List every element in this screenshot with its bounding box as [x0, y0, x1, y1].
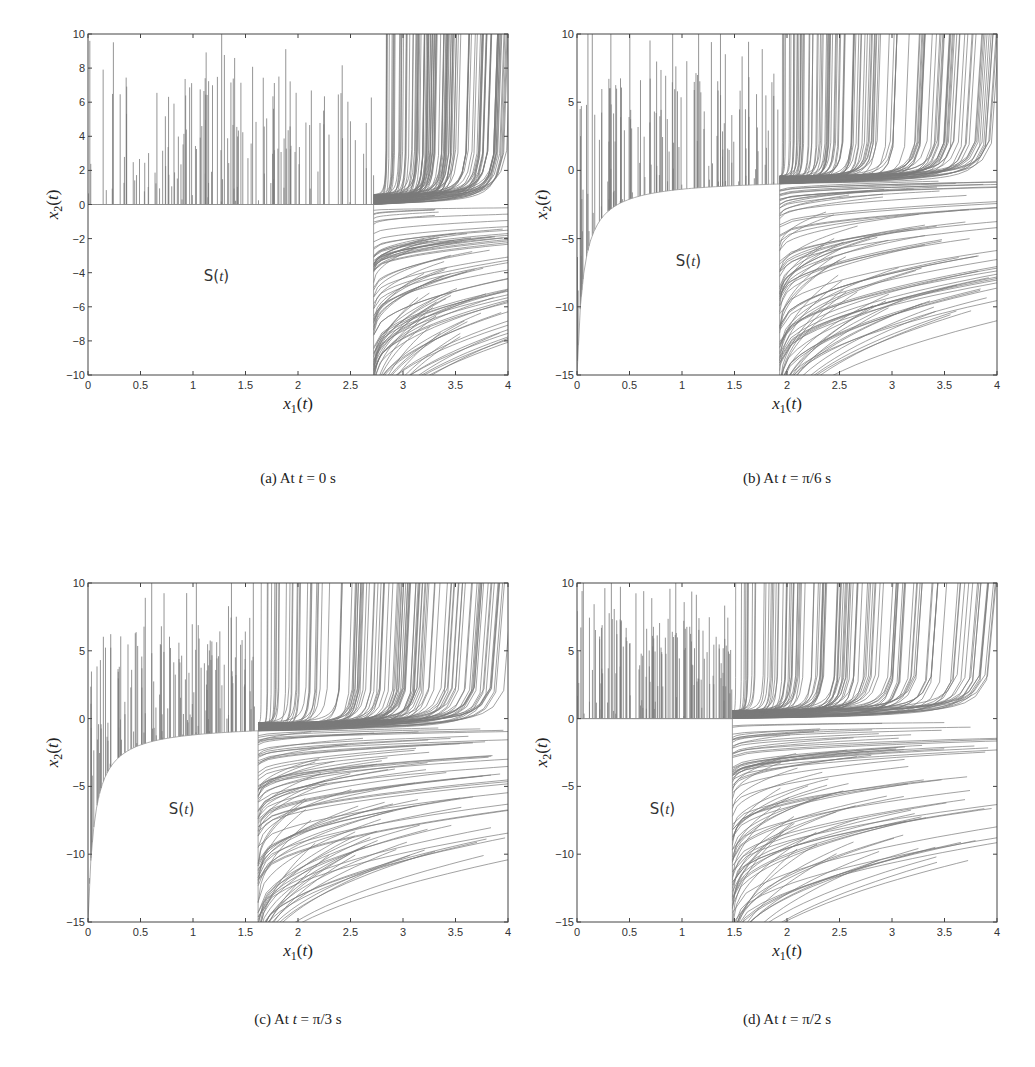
x-tick-label: 0 [574, 379, 580, 391]
x-tick-label: 1.5 [238, 926, 253, 938]
y-tick-label: 8 [79, 62, 85, 74]
x-tick-label: 0.5 [133, 379, 148, 391]
x-tick-label: 2.5 [832, 926, 847, 938]
x-tick-label: 1.5 [727, 926, 742, 938]
panel-d: 00.511.522.533.54−15−10−50510x1(t)x2(t)S… [517, 548, 1035, 1067]
y-tick-label: 10 [562, 28, 574, 40]
caption-c: (c) At t = π/3 s [148, 1011, 448, 1028]
y-tick-label: 4 [79, 130, 85, 142]
x-tick-label: 0.5 [133, 926, 148, 938]
y-tick-label: 5 [568, 645, 574, 657]
y-tick-label: −8 [72, 335, 85, 347]
y-tick-label: 5 [568, 96, 574, 108]
x-tick-label: 2 [295, 926, 301, 938]
y-tick-label: −4 [72, 267, 85, 279]
caption-b: (b) At t = π/6 s [637, 470, 937, 487]
safe-set-label: S(t) [204, 267, 229, 285]
y-tick-label: −10 [555, 848, 574, 860]
y-axis-label: x2(t) [532, 738, 554, 769]
y-tick-label: 6 [79, 96, 85, 108]
y-tick-label: −15 [555, 916, 574, 928]
y-tick-label: −10 [66, 848, 85, 860]
trajectories [577, 7, 1035, 432]
x-tick-label: 1 [190, 926, 196, 938]
chart-b: 00.511.522.533.54−15−10−50510x1(t)x2(t)S… [517, 0, 1035, 520]
y-tick-label: −2 [72, 233, 85, 245]
y-axis-label: x2(t) [43, 190, 65, 221]
x-tick-label: 4 [994, 379, 1000, 391]
x-tick-label: 4 [994, 926, 1000, 938]
y-tick-label: −10 [555, 301, 574, 313]
y-tick-label: −5 [561, 780, 574, 792]
x-tick-label: 2 [784, 379, 790, 391]
safe-set-label: S(t) [676, 252, 701, 270]
y-tick-label: 0 [79, 199, 85, 211]
y-tick-label: 0 [568, 713, 574, 725]
x-tick-label: 3 [889, 379, 895, 391]
x-tick-label: 3.5 [937, 926, 952, 938]
chart-a: 00.511.522.533.54−10−8−6−4−20246810x1(t)… [0, 0, 517, 520]
x-tick-label: 3 [889, 926, 895, 938]
x-tick-label: 0.5 [622, 926, 637, 938]
x-tick-label: 3.5 [937, 379, 952, 391]
y-axis-label: x2(t) [532, 190, 554, 221]
panel-b: 00.511.522.533.54−15−10−50510x1(t)x2(t)S… [517, 0, 1035, 520]
x-tick-label: 4 [505, 379, 511, 391]
x-tick-label: 1.5 [727, 379, 742, 391]
x-tick-label: 1 [679, 379, 685, 391]
x-tick-label: 2 [295, 379, 301, 391]
y-tick-label: −5 [72, 780, 85, 792]
y-tick-label: −15 [66, 916, 85, 928]
y-tick-label: −6 [72, 301, 85, 313]
x-tick-label: 2.5 [343, 379, 358, 391]
y-tick-label: −5 [561, 233, 574, 245]
x-axis-label: x1(t) [771, 394, 802, 416]
trajectories [577, 556, 1035, 980]
y-tick-label: −10 [66, 369, 85, 381]
x-axis-label: x1(t) [771, 941, 802, 963]
x-tick-label: 1 [679, 926, 685, 938]
x-tick-label: 0 [85, 379, 91, 391]
y-tick-label: 0 [79, 713, 85, 725]
x-tick-label: 3.5 [448, 379, 463, 391]
x-tick-label: 4 [505, 926, 511, 938]
x-tick-label: 0 [574, 926, 580, 938]
chart-d: 00.511.522.533.54−15−10−50510x1(t)x2(t)S… [517, 548, 1035, 1067]
x-tick-label: 3 [400, 379, 406, 391]
x-tick-label: 2.5 [343, 926, 358, 938]
y-tick-label: 5 [79, 645, 85, 657]
x-tick-label: 0 [85, 926, 91, 938]
x-tick-label: 2.5 [832, 379, 847, 391]
caption-d: (d) At t = π/2 s [637, 1011, 937, 1028]
y-tick-label: 10 [73, 577, 85, 589]
y-tick-label: 10 [562, 577, 574, 589]
y-tick-label: 10 [73, 28, 85, 40]
x-tick-label: 3 [400, 926, 406, 938]
panel-a: 00.511.522.533.54−10−8−6−4−20246810x1(t)… [0, 0, 517, 520]
x-tick-label: 0.5 [622, 379, 637, 391]
x-tick-label: 3.5 [448, 926, 463, 938]
panel-c: 00.511.522.533.54−15−10−50510x1(t)x2(t)S… [0, 548, 517, 1067]
axes-frame [88, 583, 508, 922]
trajectories [88, 556, 547, 968]
y-tick-label: 0 [568, 164, 574, 176]
x-tick-label: 1 [190, 379, 196, 391]
x-tick-label: 1.5 [238, 379, 253, 391]
x-axis-label: x1(t) [282, 394, 313, 416]
trajectories [88, 0, 548, 446]
chart-c: 00.511.522.533.54−15−10−50510x1(t)x2(t)S… [0, 548, 517, 1067]
x-axis-label: x1(t) [282, 941, 313, 963]
y-tick-label: 2 [79, 164, 85, 176]
caption-a: (a) At t = 0 s [148, 470, 448, 487]
y-tick-label: −15 [555, 369, 574, 381]
x-tick-label: 2 [784, 926, 790, 938]
safe-set-label: S(t) [169, 800, 194, 818]
safe-set-label: S(t) [650, 800, 675, 818]
y-axis-label: x2(t) [43, 738, 65, 769]
